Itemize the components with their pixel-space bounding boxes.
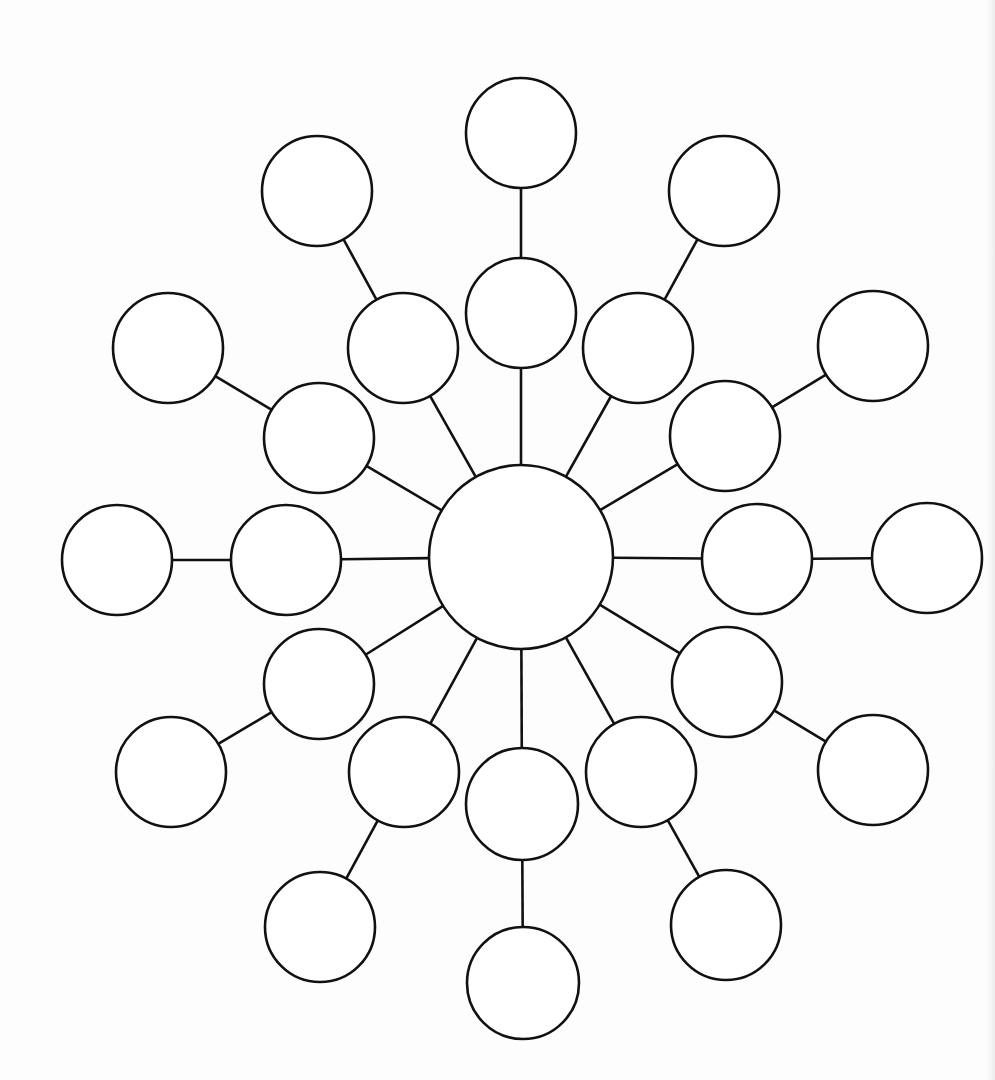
outer-node-0 — [872, 503, 982, 613]
center-node — [429, 465, 613, 649]
inner-node-150-circle — [264, 383, 374, 493]
inner-node-60-circle — [583, 293, 693, 403]
outer-node-240-circle — [265, 872, 375, 982]
diagram-canvas — [0, 0, 995, 1080]
outer-node-300-circle — [671, 870, 781, 980]
inner-node-90 — [466, 258, 576, 368]
spoke-inner-to-outer-210 — [218, 712, 271, 744]
outer-node-240 — [265, 872, 375, 982]
inner-node-90-circle — [466, 258, 576, 368]
inner-node-150 — [264, 383, 374, 493]
inner-node-270 — [466, 748, 578, 860]
outer-node-210 — [116, 717, 226, 827]
outer-node-120 — [262, 136, 372, 246]
spoke-inner-to-outer-60 — [664, 239, 697, 300]
spoke-center-to-inner-300 — [566, 637, 614, 724]
spoke-inner-to-outer-330 — [774, 710, 826, 741]
outer-node-180 — [62, 505, 172, 615]
inner-node-240-circle — [349, 717, 459, 827]
outer-node-60 — [669, 136, 779, 246]
inner-node-30 — [670, 381, 780, 491]
spoke-center-to-inner-120 — [430, 396, 476, 477]
outer-node-180-circle — [62, 505, 172, 615]
outer-node-90-circle — [466, 78, 576, 188]
outer-node-0-circle — [872, 503, 982, 613]
inner-node-120-circle — [348, 293, 458, 403]
inner-node-210-circle — [264, 629, 374, 739]
outer-node-330 — [818, 715, 928, 825]
spoke-center-to-inner-180 — [341, 558, 429, 559]
outer-node-210-circle — [116, 717, 226, 827]
inner-node-210 — [264, 629, 374, 739]
inner-node-300-circle — [586, 717, 696, 827]
outer-node-30 — [818, 291, 928, 401]
outer-node-270-circle — [467, 927, 579, 1039]
outer-node-90 — [466, 78, 576, 188]
spoke-inner-to-outer-300 — [668, 820, 700, 877]
inner-node-30-circle — [670, 381, 780, 491]
inner-node-240 — [349, 717, 459, 827]
outer-node-330-circle — [818, 715, 928, 825]
outer-node-150 — [113, 293, 223, 403]
outer-node-300 — [671, 870, 781, 980]
inner-node-0-circle — [702, 504, 812, 614]
spoke-center-to-inner-30 — [600, 464, 678, 510]
spoke-center-to-inner-0 — [613, 558, 702, 559]
inner-node-330-circle — [672, 627, 782, 737]
outer-node-60-circle — [669, 136, 779, 246]
inner-node-120 — [348, 293, 458, 403]
bubble-map-diagram — [0, 0, 995, 1080]
outer-node-30-circle — [818, 291, 928, 401]
center-node-circle — [429, 465, 613, 649]
spoke-center-to-inner-60 — [566, 396, 611, 477]
spoke-inner-to-outer-30 — [772, 375, 826, 408]
inner-node-180-circle — [231, 505, 341, 615]
inner-node-180 — [231, 505, 341, 615]
spoke-center-to-inner-240 — [430, 638, 477, 724]
outer-node-150-circle — [113, 293, 223, 403]
spoke-inner-to-outer-120 — [343, 239, 376, 300]
inner-node-60 — [583, 293, 693, 403]
inner-node-0 — [702, 504, 812, 614]
outer-node-120-circle — [262, 136, 372, 246]
inner-node-270-circle — [466, 748, 578, 860]
outer-node-270 — [467, 927, 579, 1039]
page-edge-shadow — [987, 0, 995, 1080]
spoke-inner-to-outer-150 — [215, 376, 272, 410]
spoke-inner-to-outer-240 — [346, 820, 378, 878]
spoke-center-to-inner-150 — [366, 466, 441, 510]
inner-node-330 — [672, 627, 782, 737]
spoke-center-to-inner-330 — [600, 605, 680, 654]
spoke-center-to-inner-210 — [366, 606, 444, 655]
inner-node-300 — [586, 717, 696, 827]
